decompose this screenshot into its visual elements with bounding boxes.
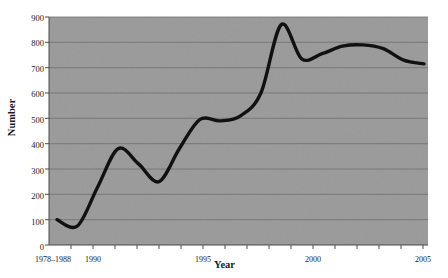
y-axis-ticks xyxy=(45,17,49,245)
plot-area-grain xyxy=(49,17,428,245)
x-axis-ticks xyxy=(71,245,423,249)
chart-figure: ·· · Number Year 900 800 700 600 500 400… xyxy=(0,0,448,278)
chart-canvas xyxy=(0,0,448,278)
